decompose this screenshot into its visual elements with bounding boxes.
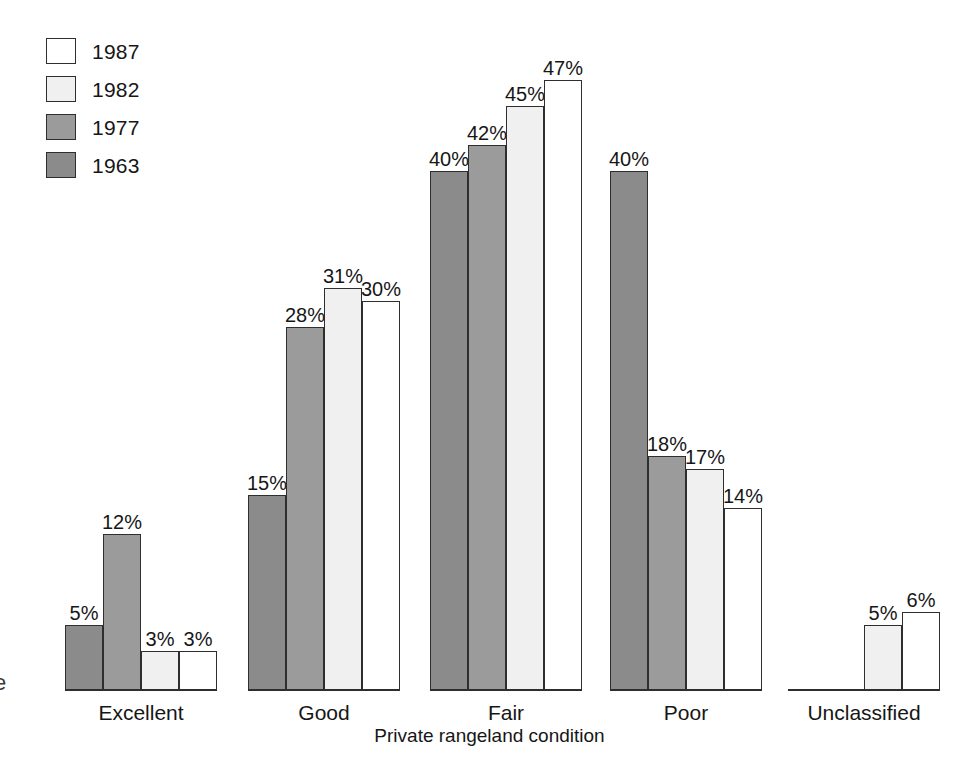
bar-1987-fair[interactable]: 47%: [544, 80, 582, 690]
bar-chart-figure: 1987 1982 1977 1963 5%12%3%3%Excellent15…: [0, 0, 979, 769]
bar-value-label: 5%: [70, 603, 99, 623]
bar-1977-good[interactable]: 28%: [286, 327, 324, 690]
bar-1987-excellent[interactable]: 3%: [179, 651, 217, 690]
bar-value-label: 30%: [361, 279, 401, 299]
bar-value-label: 31%: [323, 266, 363, 286]
plot-area: 5%12%3%3%Excellent15%28%31%30%Good40%42%…: [0, 0, 979, 769]
bar-value-label: 6%: [907, 590, 936, 610]
bar-value-label: 45%: [505, 84, 545, 104]
bar-1982-poor[interactable]: 17%: [686, 469, 724, 690]
bar-1963-fair[interactable]: 40%: [430, 171, 468, 690]
bar-value-label: 18%: [647, 434, 687, 454]
bar-value-label: 40%: [429, 149, 469, 169]
bar-value-label: 3%: [146, 629, 175, 649]
bar-group-good: 15%28%31%30%Good: [248, 689, 400, 690]
bar-value-label: 15%: [247, 473, 287, 493]
bar-1977-fair[interactable]: 42%: [468, 145, 506, 690]
bar-1987-unclassified[interactable]: 6%: [902, 612, 940, 690]
bar-1982-good[interactable]: 31%: [324, 288, 362, 690]
bar-1963-poor[interactable]: 40%: [610, 171, 648, 690]
bar-group-unclassified: 5%6%Unclassified: [788, 689, 940, 690]
bar-value-label: 40%: [609, 149, 649, 169]
category-label-poor: Poor: [610, 702, 762, 723]
bar-1982-excellent[interactable]: 3%: [141, 651, 179, 690]
cropped-margin-glyph: e: [0, 672, 6, 698]
x-axis-title: Private rangeland condition: [0, 726, 979, 745]
bar-group-poor: 40%18%17%14%Poor: [610, 689, 762, 690]
bar-value-label: 3%: [184, 629, 213, 649]
bar-1987-poor[interactable]: 14%: [724, 508, 762, 690]
bar-value-label: 47%: [543, 58, 583, 78]
category-label-fair: Fair: [430, 702, 582, 723]
category-label-good: Good: [248, 702, 400, 723]
bar-value-label: 28%: [285, 305, 325, 325]
bar-value-label: 14%: [723, 486, 763, 506]
bar-1963-good[interactable]: 15%: [248, 495, 286, 690]
bar-value-label: 42%: [467, 123, 507, 143]
bar-1982-fair[interactable]: 45%: [506, 106, 544, 690]
bar-value-label: 17%: [685, 447, 725, 467]
bar-1977-excellent[interactable]: 12%: [103, 534, 141, 690]
bar-group-fair: 40%42%45%47%Fair: [430, 689, 582, 690]
bar-value-label: 12%: [102, 512, 142, 532]
category-label-unclassified: Unclassified: [788, 702, 940, 723]
bar-1987-good[interactable]: 30%: [362, 301, 400, 690]
category-label-excellent: Excellent: [65, 702, 217, 723]
bar-value-label: 5%: [869, 603, 898, 623]
bar-1963-excellent[interactable]: 5%: [65, 625, 103, 690]
bar-1982-unclassified[interactable]: 5%: [864, 625, 902, 690]
bar-1977-poor[interactable]: 18%: [648, 456, 686, 690]
bar-group-excellent: 5%12%3%3%Excellent: [65, 689, 217, 690]
